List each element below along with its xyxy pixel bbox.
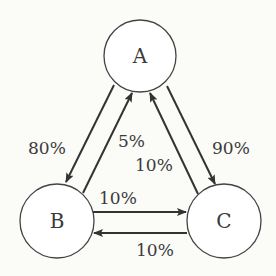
edge-label-c-to-b: 10% — [136, 240, 174, 260]
edge-label-b-to-c: 10% — [99, 188, 137, 208]
node-c: C — [187, 184, 261, 258]
edge-label-b-to-a: 5% — [118, 131, 145, 151]
node-b-label: B — [50, 209, 65, 233]
edge-label-a-to-c: 90% — [212, 138, 250, 158]
edge-a-to-b — [66, 85, 114, 182]
edge-label-c-to-a: 10% — [135, 155, 173, 175]
edge-a-to-c — [167, 86, 215, 184]
markov-diagram: A B C 80% 5% 10% 90% 10% 10% — [0, 0, 276, 276]
edge-label-a-to-b: 80% — [28, 138, 66, 158]
node-c-label: C — [216, 209, 231, 233]
node-b: B — [20, 184, 94, 258]
edge-c-to-a — [150, 93, 198, 194]
node-a-label: A — [132, 44, 148, 68]
node-a: A — [104, 20, 176, 92]
